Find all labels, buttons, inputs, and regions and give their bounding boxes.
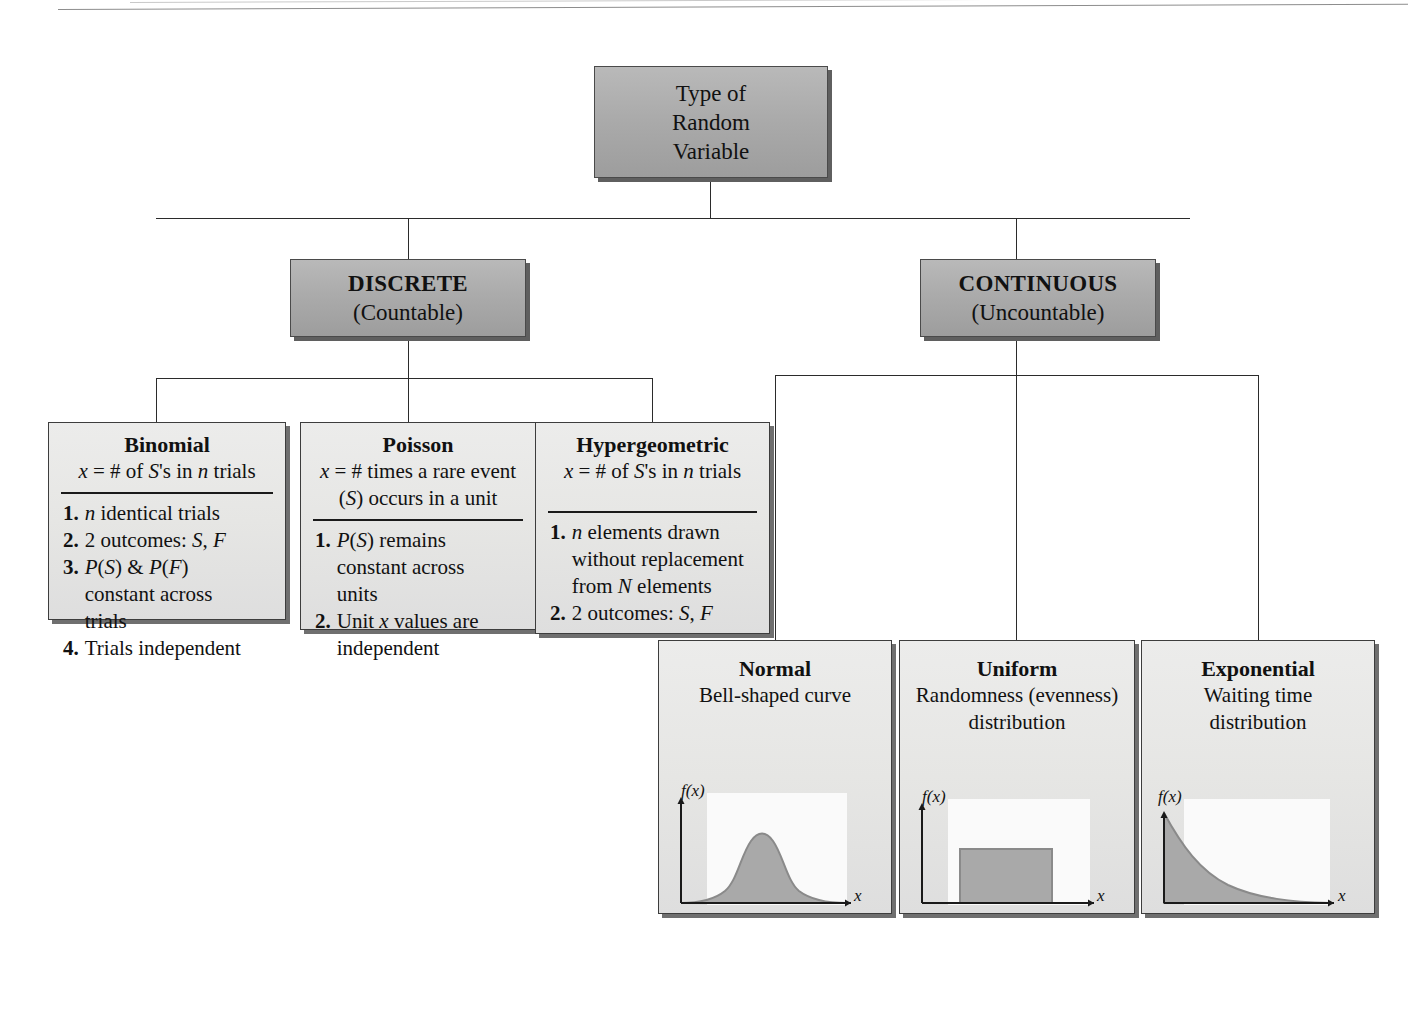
node-binomial[interactable]: Binomial x = # of S's in n trials 1.n id… (48, 422, 286, 620)
poisson-item-1-text: P(S) remainsconstant acrossunits (337, 527, 525, 608)
connector-to-hypergeometric (652, 378, 653, 422)
page-header-rule-faint (130, 0, 1210, 3)
list-item: 2.Unit x values areindependent (315, 608, 525, 662)
hypergeometric-definition: x = # of S's in n trials (536, 458, 769, 485)
poisson-item-2-num: 2. (315, 608, 331, 662)
binomial-item-2-text: 2 outcomes: S, F (85, 527, 275, 554)
binomial-item-1-text: n identical trials (85, 500, 275, 527)
poisson-conditions: 1.P(S) remainsconstant acrossunits 2.Uni… (301, 527, 535, 662)
poisson-definition: x = # times a rare event(S) occurs in a … (301, 458, 535, 512)
connector-to-discrete (408, 218, 409, 259)
connector-to-uniform (1016, 375, 1017, 640)
hypergeometric-conditions: 1.n elements drawnwithout replacementfro… (536, 519, 769, 627)
root-line-1: Type of (676, 79, 747, 108)
hypergeometric-item-2-num: 2. (550, 600, 566, 627)
poisson-item-1-num: 1. (315, 527, 331, 608)
list-item: 2.2 outcomes: S, F (63, 527, 275, 554)
binomial-item-1-num: 1. (63, 500, 79, 527)
node-type-of-random-variable[interactable]: Type of Random Variable (594, 66, 828, 178)
uniform-plot: f(x) x (900, 641, 1136, 915)
root-line-2: Random (672, 108, 750, 137)
connector-to-poisson (408, 378, 409, 422)
continuous-subtitle: (Uncountable) (972, 298, 1105, 327)
binomial-item-3-text: P(S) & P(F)constant acrosstrials (85, 554, 275, 635)
poisson-title: Poisson (301, 431, 535, 458)
hypergeometric-divider (548, 511, 757, 513)
hypergeometric-item-1-text: n elements drawnwithout replacementfrom … (572, 519, 759, 600)
list-item: 2.2 outcomes: S, F (550, 600, 759, 627)
connector-root-down (710, 178, 711, 218)
binomial-item-4-num: 4. (63, 635, 79, 662)
connector-to-exponential (1258, 375, 1259, 640)
exponential-plot: f(x) x (1142, 641, 1376, 915)
connector-top-split (156, 218, 1190, 219)
list-item: 1.P(S) remainsconstant acrossunits (315, 527, 525, 608)
hypergeometric-item-1-num: 1. (550, 519, 566, 600)
binomial-title: Binomial (49, 431, 285, 458)
connector-discrete-split (156, 378, 653, 379)
list-item: 1.n identical trials (63, 500, 275, 527)
connector-to-binomial (156, 378, 157, 422)
binomial-item-4-text: Trials independent (85, 635, 275, 662)
binomial-definition: x = # of S's in n trials (49, 458, 285, 485)
diagram-canvas: Type of Random Variable DISCRETE (Counta… (0, 0, 1417, 1016)
connector-top-split-left-cap (156, 218, 157, 219)
normal-plot: f(x) x (659, 641, 893, 915)
node-continuous[interactable]: CONTINUOUS (Uncountable) (920, 259, 1156, 337)
binomial-conditions: 1.n identical trials 2.2 outcomes: S, F … (49, 500, 285, 662)
node-discrete[interactable]: DISCRETE (Countable) (290, 259, 526, 337)
poisson-divider (313, 519, 523, 521)
node-hypergeometric[interactable]: Hypergeometric x = # of S's in n trials … (535, 422, 770, 634)
node-normal[interactable]: Normal Bell-shaped curve f(x) x (658, 640, 892, 914)
connector-to-normal (775, 375, 776, 640)
poisson-item-2-text: Unit x values areindependent (337, 608, 525, 662)
binomial-item-3-num: 3. (63, 554, 79, 635)
connector-continuous-split (775, 375, 1259, 376)
normal-curve-svg (659, 641, 893, 915)
discrete-subtitle: (Countable) (353, 298, 463, 327)
list-item: 4.Trials independent (63, 635, 275, 662)
hypergeometric-item-2-text: 2 outcomes: S, F (572, 600, 759, 627)
list-item: 3.P(S) & P(F)constant acrosstrials (63, 554, 275, 635)
uniform-rect-svg (900, 641, 1136, 915)
discrete-title: DISCRETE (348, 269, 468, 298)
binomial-divider (61, 492, 273, 494)
node-poisson[interactable]: Poisson x = # times a rare event(S) occu… (300, 422, 536, 630)
connector-to-continuous (1016, 218, 1017, 259)
root-line-3: Variable (673, 137, 750, 166)
connector-continuous-down (1016, 337, 1017, 375)
node-exponential[interactable]: Exponential Waiting time distribution f(… (1141, 640, 1375, 914)
continuous-title: CONTINUOUS (959, 269, 1118, 298)
connector-discrete-down (408, 337, 409, 378)
hypergeometric-title: Hypergeometric (536, 431, 769, 458)
list-item: 1.n elements drawnwithout replacementfro… (550, 519, 759, 600)
connector-top-split-right-cap (1189, 218, 1190, 219)
binomial-item-2-num: 2. (63, 527, 79, 554)
page-header-rule (58, 4, 1408, 10)
exponential-curve-svg (1142, 641, 1376, 915)
node-uniform[interactable]: Uniform Randomness (evenness) distributi… (899, 640, 1135, 914)
